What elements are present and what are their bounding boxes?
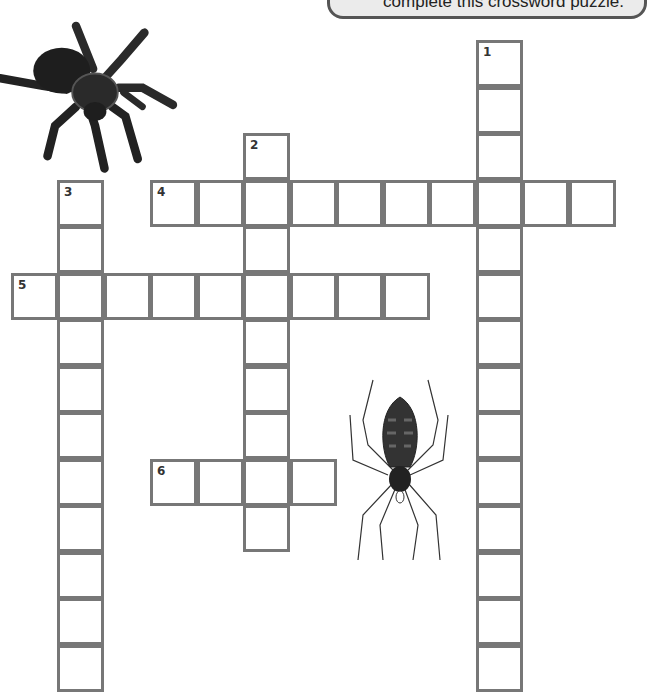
crossword-cell[interactable]: 2 [243, 133, 290, 180]
crossword-cell[interactable] [476, 598, 523, 645]
crossword-cell[interactable] [57, 645, 104, 692]
clue-number: 1 [483, 45, 491, 59]
crossword-cell[interactable] [476, 459, 523, 506]
crossword-cell[interactable] [57, 552, 104, 599]
crossword-cell[interactable] [57, 459, 104, 506]
crossword-cell[interactable] [336, 180, 383, 227]
crossword-cell[interactable] [476, 505, 523, 552]
crossword-cell[interactable] [476, 273, 523, 320]
crossword-cell[interactable]: 1 [476, 40, 523, 87]
clue-number: 2 [250, 138, 258, 152]
crossword-cell[interactable] [383, 180, 430, 227]
crossword-cell[interactable] [476, 412, 523, 459]
clue-number: 5 [18, 278, 26, 292]
crossword-cell[interactable] [243, 226, 290, 273]
crossword-cell[interactable] [243, 412, 290, 459]
crossword-cell[interactable] [57, 412, 104, 459]
crossword-cell[interactable] [57, 598, 104, 645]
crossword-cell[interactable]: 3 [57, 180, 104, 227]
crossword-cell[interactable] [476, 133, 523, 180]
crossword-cell[interactable] [290, 180, 337, 227]
crossword-cell[interactable] [243, 459, 290, 506]
crossword-cell[interactable] [243, 273, 290, 320]
crossword-cell[interactable] [104, 273, 151, 320]
crossword-cell[interactable]: 4 [150, 180, 197, 227]
crossword-cell[interactable] [476, 226, 523, 273]
crossword-cell[interactable] [476, 366, 523, 413]
crossword-cell[interactable] [57, 226, 104, 273]
orb-weaver-spider-icon [338, 375, 458, 565]
clue-number: 3 [64, 185, 72, 199]
crossword-cell[interactable] [476, 87, 523, 134]
crossword-cell[interactable] [57, 505, 104, 552]
tarantula-icon [0, 10, 190, 175]
crossword-cell[interactable] [522, 180, 569, 227]
crossword-cell[interactable] [383, 273, 430, 320]
crossword-cell[interactable] [429, 180, 476, 227]
crossword-cell[interactable] [476, 552, 523, 599]
crossword-cell[interactable] [290, 273, 337, 320]
crossword-cell[interactable] [569, 180, 616, 227]
crossword-cell[interactable] [197, 180, 244, 227]
crossword-cell[interactable] [476, 645, 523, 692]
clue-number: 4 [157, 185, 165, 199]
crossword-cell[interactable] [476, 319, 523, 366]
crossword-cell[interactable] [243, 180, 290, 227]
crossword-cell[interactable] [476, 180, 523, 227]
crossword-cell[interactable] [243, 319, 290, 366]
crossword-cell[interactable] [336, 273, 383, 320]
crossword-cell[interactable] [150, 273, 197, 320]
crossword-cell[interactable] [57, 273, 104, 320]
crossword-cell[interactable] [243, 366, 290, 413]
crossword-cell[interactable] [57, 319, 104, 366]
crossword-cell[interactable] [57, 366, 104, 413]
crossword-cell[interactable]: 6 [150, 459, 197, 506]
crossword-cell[interactable] [243, 505, 290, 552]
crossword-cell[interactable] [290, 459, 337, 506]
crossword-cell[interactable]: 5 [11, 273, 58, 320]
clue-number: 6 [157, 464, 165, 478]
crossword-cell[interactable] [197, 459, 244, 506]
crossword-cell[interactable] [197, 273, 244, 320]
